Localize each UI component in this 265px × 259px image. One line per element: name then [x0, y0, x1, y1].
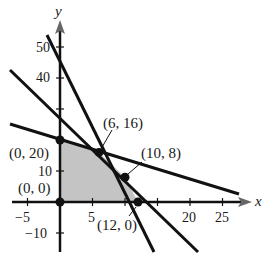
x-tick-label-25: 25: [215, 210, 229, 225]
x-axis-label: x: [254, 193, 262, 209]
linear-programming-graph: −5 5 20 25 −10 10 40 50 x y (0, 0) (0, 2…: [0, 0, 265, 259]
y-axis-label: y: [53, 3, 62, 19]
point-label-0-0: (0, 0): [18, 180, 51, 197]
y-tick-label-40: 40: [36, 70, 50, 85]
point-label-12-0: (12, 0): [97, 217, 137, 234]
vertex-6-16: [95, 148, 104, 157]
point-label-0-20: (0, 20): [9, 145, 49, 162]
vertex-12-0: [134, 198, 143, 207]
leader-10-8: [128, 162, 142, 174]
y-tick-label-neg10: −10: [25, 226, 47, 241]
vertex-0-20: [56, 136, 65, 145]
vertex-0-0: [56, 198, 65, 207]
y-tick-label-10: 10: [38, 164, 52, 179]
y-tick-label-50: 50: [36, 40, 50, 55]
x-tick-label-20: 20: [182, 210, 196, 225]
x-tick-label-5: 5: [88, 210, 95, 225]
point-label-6-16: (6, 16): [103, 115, 143, 132]
x-tick-label-neg5: −5: [15, 210, 30, 225]
leader-6-16: [101, 130, 112, 149]
point-label-10-8: (10, 8): [141, 145, 181, 162]
